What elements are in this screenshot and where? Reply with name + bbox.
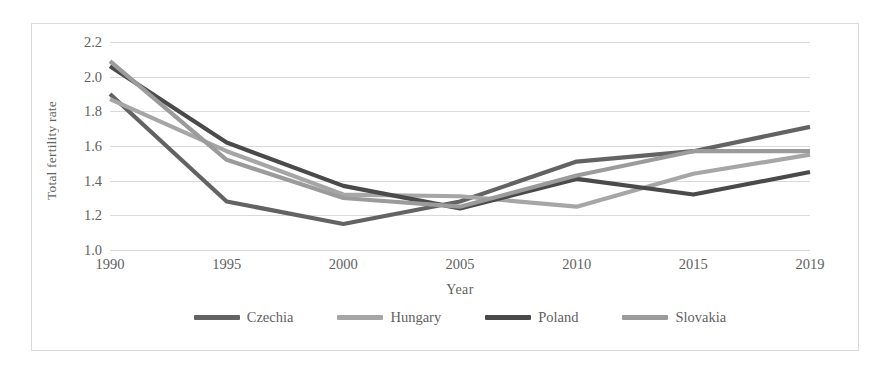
legend-label: Poland: [538, 309, 578, 325]
legend-swatch-icon: [622, 315, 668, 320]
gridline: [110, 250, 810, 251]
x-axis-tick-label: 2010: [562, 256, 591, 272]
legend-item-czechia[interactable]: Czechia: [194, 309, 294, 325]
x-axis-title: Year: [110, 282, 810, 298]
x-axis-tick-labels: 1990199520002005201020152019: [110, 256, 810, 276]
plot-area: [110, 42, 810, 250]
x-axis-tick-label: 2019: [796, 256, 825, 272]
legend-label: Slovakia: [675, 309, 726, 325]
legend-swatch-icon: [194, 315, 240, 320]
legend-swatch-icon: [485, 315, 531, 320]
series-lines: [110, 42, 810, 250]
y-axis-tick-label: 1.4: [84, 174, 102, 188]
legend-item-slovakia[interactable]: Slovakia: [622, 309, 726, 325]
legend-label: Czechia: [247, 309, 294, 325]
chart-figure: Total fertility rate 1.01.21.41.61.82.02…: [0, 0, 890, 368]
legend-label: Hungary: [390, 309, 441, 325]
y-axis-tick-label: 1.0: [84, 243, 102, 257]
y-axis-tick-label: 1.2: [84, 208, 102, 222]
legend-item-hungary[interactable]: Hungary: [337, 309, 441, 325]
legend-item-poland[interactable]: Poland: [485, 309, 578, 325]
y-axis-tick-labels: 1.01.21.41.61.82.02.2: [56, 42, 102, 250]
x-axis-tick-label: 2005: [446, 256, 475, 272]
y-axis-tick-label: 2.0: [84, 70, 102, 84]
y-axis-tick-label: 1.6: [84, 139, 102, 153]
y-axis-tick-label: 2.2: [84, 35, 102, 49]
legend-swatch-icon: [337, 315, 383, 320]
x-axis-tick-label: 2000: [329, 256, 358, 272]
x-axis-tick-label: 2015: [679, 256, 708, 272]
x-axis-tick-label: 1995: [212, 256, 241, 272]
chart-legend: CzechiaHungaryPolandSlovakia: [110, 306, 810, 328]
y-axis-tick-label: 1.8: [84, 104, 102, 118]
x-axis-tick-label: 1990: [96, 256, 125, 272]
series-line-poland: [110, 66, 810, 208]
